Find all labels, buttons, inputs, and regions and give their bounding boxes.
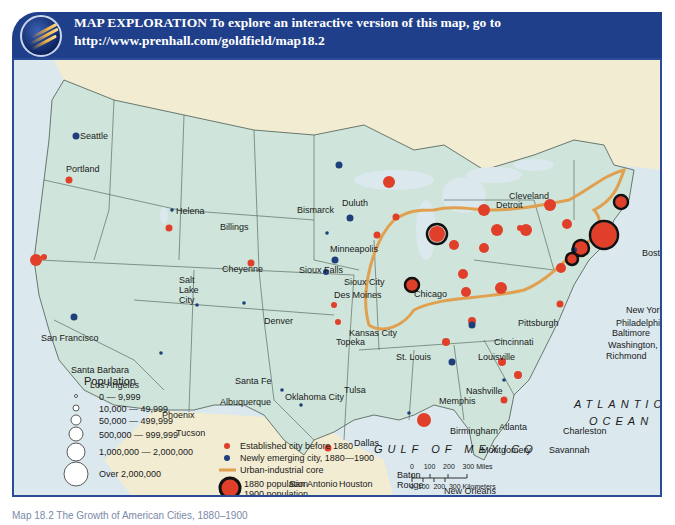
legend-size-5: Over 2,000,000 xyxy=(99,469,161,479)
legend-title: Population xyxy=(84,375,136,387)
banner-line-1: MAP EXPLORATION To explore an interactiv… xyxy=(74,14,501,32)
city-label-pittsburgh: Pittsburgh xyxy=(518,318,559,328)
city-label-portland: Portland xyxy=(66,164,100,174)
city-label-bismarck: Bismarck xyxy=(297,205,334,215)
ocean-label-atlantic-2: OCEAN xyxy=(589,415,653,427)
legend-established: Established city before 1880 xyxy=(240,441,353,451)
city-label-salt-lake-city: Salt Lake City xyxy=(179,275,203,305)
legend-size-4: 1,000,000 — 2,000,000 xyxy=(99,447,193,457)
city-label-topeka: Topeka xyxy=(336,337,365,347)
globe-logo-icon xyxy=(20,15,62,57)
legend-urban-core: Urban-industrial core xyxy=(240,465,324,475)
city-label-minneapolis: Minneapolis xyxy=(330,244,378,254)
city-label-richmond: Richmond xyxy=(606,351,647,361)
banner-url-link[interactable]: http://www.prenhall.com/goldfield/map18.… xyxy=(74,32,501,50)
city-label-oklahoma-city: Oklahoma City xyxy=(285,392,344,402)
legend-1900-pop: 1900 population xyxy=(244,489,308,497)
city-label-new-york: New York xyxy=(626,305,662,315)
city-label-santa-barbara: Santa Barbara xyxy=(71,365,129,375)
city-label-houston: Houston xyxy=(339,479,373,489)
city-label-sioux-falls: Sioux Falls xyxy=(299,265,343,275)
banner-text: MAP EXPLORATION To explore an interactiv… xyxy=(74,14,501,50)
city-label-cleveland: Cleveland xyxy=(509,191,549,201)
city-label-des-moines: Des Moines xyxy=(334,290,382,300)
scale-km: 0 100 200 300 Kilometers xyxy=(410,483,496,490)
city-label-albuquerque: Albuquerque xyxy=(220,397,271,407)
city-label-louisville: Louisville xyxy=(478,352,515,362)
city-label-duluth: Duluth xyxy=(342,198,368,208)
scale-miles: 0 100 200 300 Miles xyxy=(410,463,493,470)
ocean-label-gulf: GULF OF MEXICO xyxy=(374,443,538,455)
city-label-san-francisco: San Francisco xyxy=(41,333,99,343)
legend-size-0: 0 — 9,999 xyxy=(99,392,141,402)
population-legend: Population xyxy=(84,375,136,387)
city-label-nashville: Nashville xyxy=(466,386,503,396)
map-caption: Map 18.2 The Growth of American Cities, … xyxy=(12,510,248,521)
city-label-chicago: Chicago xyxy=(414,289,447,299)
city-label-baltimore: Baltimore xyxy=(612,328,650,338)
legend-size-1: 10,000 — 49,999 xyxy=(99,404,168,414)
city-label-atlanta: Atlanta xyxy=(499,422,527,432)
legend-emerging: Newly emerging city, 1880—1900 xyxy=(240,453,374,463)
city-label-savannah: Savannah xyxy=(549,445,590,455)
city-label-cincinnati: Cincinnati xyxy=(494,337,534,347)
city-label-st-louis: St. Louis xyxy=(396,352,431,362)
city-label-detroit: Detroit xyxy=(496,200,523,210)
legend-1880-pop: 1880 population xyxy=(244,479,308,489)
ocean-label-atlantic: ATLANTIC xyxy=(574,398,662,410)
legend-size-3: 500,000 — 999,999 xyxy=(99,430,178,440)
city-label-sioux-city: Sioux City xyxy=(344,277,385,287)
city-label-charleston: Charleston xyxy=(563,426,607,436)
city-label-tulsa: Tulsa xyxy=(344,385,366,395)
city-label-santa-fe: Santa Fe xyxy=(235,376,272,386)
city-label-cheyenne: Cheyenne xyxy=(222,264,263,274)
city-label-washington-dc: Washington, D.C. xyxy=(608,340,662,350)
city-label-denver: Denver xyxy=(264,316,293,326)
legend-size-2: 50,000 — 499,999 xyxy=(99,416,173,426)
city-label-seattle: Seattle xyxy=(80,131,108,141)
city-label-boston: Boston xyxy=(642,248,662,258)
city-label-tucson: Tucson xyxy=(176,428,205,438)
city-label-birmingham: Birmingham xyxy=(450,426,498,436)
city-label-philadelphia: Philadelphia xyxy=(616,318,662,328)
city-label-helena: Helena xyxy=(176,206,205,216)
map-frame: Seattle Portland Helena Billings Bismarc… xyxy=(12,58,662,497)
city-label-billings: Billings xyxy=(220,222,249,232)
city-label-memphis: Memphis xyxy=(439,396,476,406)
